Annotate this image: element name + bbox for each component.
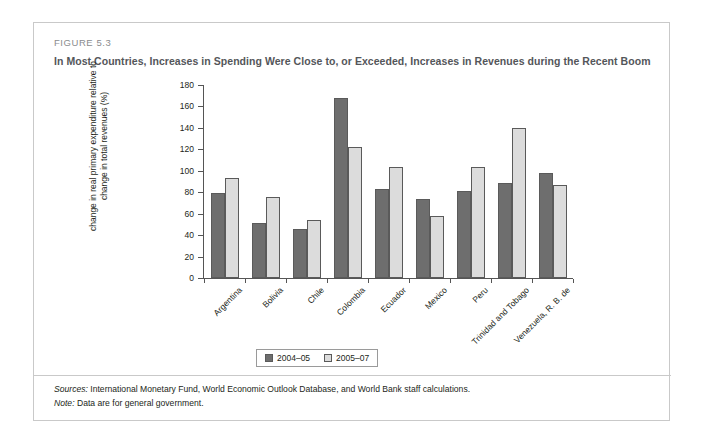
chart-legend: 2004–052005–07 (256, 349, 378, 367)
legend-swatch-icon (265, 354, 273, 362)
legend-label: 2005–07 (336, 353, 369, 363)
bar-peru-2005-07 (471, 167, 485, 279)
bar-peru-2004-05 (457, 191, 471, 278)
x-axis-tick (450, 279, 451, 283)
y-axis-tick-label: 160 (168, 101, 194, 111)
y-axis-tick (198, 149, 203, 150)
bar-group (457, 85, 485, 278)
bars-layer (204, 85, 573, 278)
bar-group (252, 85, 280, 278)
x-axis-line (203, 278, 573, 279)
y-axis-tick (198, 235, 203, 236)
x-axis-tick (491, 279, 492, 283)
bar-bolivia-2004-05 (252, 223, 266, 278)
footer-divider (34, 375, 671, 376)
bar-bolivia-2005-07 (266, 197, 280, 278)
x-axis-tick (327, 279, 328, 283)
y-axis-tick-label: 100 (168, 166, 194, 176)
x-axis-label-chile: Chile (305, 285, 326, 306)
y-axis-tick-label: 120 (168, 144, 194, 154)
bar-mexico-2005-07 (430, 216, 444, 278)
x-axis-label-mexico: Mexico (422, 285, 448, 311)
bar-trinidad-and-tobago-2005-07 (512, 128, 526, 278)
x-axis-tick (409, 279, 410, 283)
legend-swatch-icon (324, 354, 332, 362)
legend-label: 2004–05 (277, 353, 310, 363)
x-axis-label-bolivia: Bolivia (260, 285, 285, 310)
y-axis-tick (198, 214, 203, 215)
x-axis-tick (368, 279, 369, 283)
bar-ecuador-2005-07 (389, 167, 403, 279)
y-axis-tick (198, 192, 203, 193)
footer-sources-text: International Monetary Fund, World Econo… (88, 384, 470, 394)
bar-venezuela-r-b-de-2005-07 (553, 185, 567, 278)
bar-trinidad-and-tobago-2004-05 (498, 183, 512, 278)
bar-argentina-2004-05 (211, 193, 225, 278)
y-axis-tick-label: 80 (168, 187, 194, 197)
x-axis-tick (245, 279, 246, 283)
figure-card: FIGURE 5.3 In Most Countries, Increases … (33, 22, 670, 421)
bar-ecuador-2004-05 (375, 189, 389, 278)
y-axis-tick-label: 20 (168, 252, 194, 262)
footer-note-text: Data are for general government. (75, 398, 204, 408)
y-axis-tick-label: 40 (168, 230, 194, 240)
bar-colombia-2005-07 (348, 147, 362, 278)
x-axis-tick (532, 279, 533, 283)
bar-group (211, 85, 239, 278)
bar-mexico-2004-05 (416, 199, 430, 278)
bar-colombia-2004-05 (334, 98, 348, 278)
bar-group (293, 85, 321, 278)
y-axis-tick (198, 171, 203, 172)
y-axis-tick (198, 85, 203, 86)
bar-venezuela-r-b-de-2004-05 (539, 173, 553, 278)
y-axis-tick-label: 180 (168, 80, 194, 90)
legend-entry-2004-05: 2004–05 (265, 353, 310, 363)
footer-sources-key: Sources: (54, 384, 88, 394)
y-axis-tick (198, 278, 203, 279)
footer-note-line: Note: Data are for general government. (54, 397, 654, 411)
bar-group (498, 85, 526, 278)
bar-chile-2004-05 (293, 229, 307, 278)
x-axis-tick (204, 279, 205, 283)
x-axis-label-ecuador: Ecuador (378, 285, 407, 314)
chart-plot-region: change in real primary expenditure relat… (34, 23, 671, 422)
bar-chile-2005-07 (307, 220, 321, 278)
legend-entry-2005-07: 2005–07 (324, 353, 369, 363)
y-axis-tick-label: 60 (168, 209, 194, 219)
x-axis-tick (573, 279, 574, 283)
bar-argentina-2005-07 (225, 178, 239, 278)
bar-group (539, 85, 567, 278)
y-axis-tick (198, 106, 203, 107)
x-axis-label-peru: Peru (470, 285, 490, 305)
x-axis-tick (286, 279, 287, 283)
y-axis-tick (198, 128, 203, 129)
figure-footer: Sources: International Monetary Fund, Wo… (54, 383, 654, 410)
y-axis-tick (198, 257, 203, 258)
y-axis-title: change in real primary expenditure relat… (88, 46, 110, 246)
footer-sources-line: Sources: International Monetary Fund, Wo… (54, 383, 654, 397)
y-axis-tick-label: 140 (168, 123, 194, 133)
y-axis-tick-label: 0 (168, 273, 194, 283)
bar-group (334, 85, 362, 278)
footer-note-key: Note: (54, 398, 75, 408)
x-axis-label-argentina: Argentina (211, 285, 244, 318)
x-axis-label-colombia: Colombia (334, 285, 366, 317)
bar-group (375, 85, 403, 278)
bar-group (416, 85, 444, 278)
